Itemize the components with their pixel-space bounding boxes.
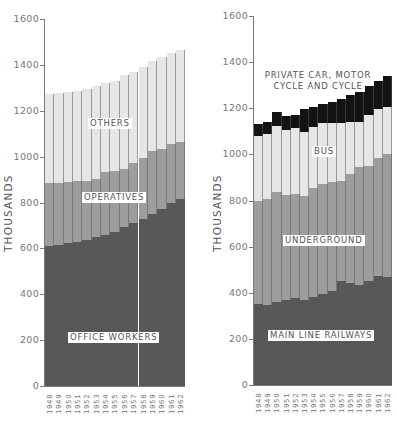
x-tick-label-year: 1957 <box>338 393 346 413</box>
bar-segment-office-workers <box>64 243 73 386</box>
y-tick-label: 400 <box>5 288 39 299</box>
bar-segment-office-workers <box>92 237 101 386</box>
bar-segment-main-line-railways <box>300 300 309 385</box>
bar-segment-underground <box>300 196 309 300</box>
bar-segment-others <box>148 61 157 152</box>
right-chart-travel-mode: 0200400600800100012001400160019481949195… <box>200 0 397 422</box>
bar-segment-private-car-motor-cycle-and-cycle <box>282 116 291 130</box>
x-tick-label-year: 1954 <box>310 393 318 413</box>
y-tick <box>249 108 253 109</box>
x-tick-label-year: 1949 <box>55 394 63 414</box>
x-tick-label-year: 1952 <box>292 393 300 413</box>
left-chart-workers-by-type: 0200400600800100012001400160019481949195… <box>0 0 200 422</box>
x-tick-label-year: 1956 <box>121 394 129 414</box>
bar-segment-underground <box>346 174 355 283</box>
bar-segment-office-workers <box>120 227 129 386</box>
y-tick-label: 1000 <box>214 148 248 159</box>
bar-segment-operatives <box>101 172 110 235</box>
y-tick <box>249 62 253 63</box>
bar-segment-operatives <box>167 144 176 203</box>
bar-segment-operatives <box>139 158 148 219</box>
x-tick-label-year: 1961 <box>375 393 383 413</box>
bar-segment-office-workers <box>73 242 82 386</box>
y-tick <box>40 203 44 204</box>
label-operatives: OPERATIVES <box>82 192 146 203</box>
bar-segment-office-workers <box>139 219 148 386</box>
bar-segment-others <box>139 67 148 159</box>
bar-segment-underground <box>355 167 364 285</box>
label-office-workers: OFFICE WORKERS <box>68 332 159 343</box>
bar-segment-operatives <box>54 183 63 245</box>
bar-segment-private-car-motor-cycle-and-cycle <box>346 95 355 122</box>
bar-segment-others <box>176 50 185 142</box>
x-tick-label-year: 1960 <box>158 394 166 414</box>
x-tick-label-year: 1959 <box>356 393 364 413</box>
y-tick <box>40 340 44 341</box>
x-tick-label-year: 1955 <box>111 394 119 414</box>
bar-segment-bus <box>374 109 383 158</box>
x-tick-label-year: 1958 <box>347 393 355 413</box>
x-tick-label-year: 1959 <box>149 394 157 414</box>
bar-segment-others <box>167 53 176 144</box>
x-tick-label-year: 1948 <box>255 393 263 413</box>
bar-segment-bus <box>364 115 373 166</box>
bar-segment-others <box>157 57 166 149</box>
y-tick <box>249 339 253 340</box>
bar-segment-main-line-railways <box>374 276 383 385</box>
bar-segment-bus <box>300 132 309 195</box>
bar-segment-main-line-railways <box>254 304 263 385</box>
y-tick-label: 200 <box>214 333 248 344</box>
bar-segment-operatives <box>92 179 101 237</box>
label-bus: BUS <box>312 146 336 157</box>
bar-segment-private-car-motor-cycle-and-cycle <box>291 115 300 128</box>
x-tick-label-year: 1960 <box>365 393 373 413</box>
bar-segment-operatives <box>73 181 82 241</box>
label-main-line-railways: MAIN LINE RAILWAYS <box>268 330 374 341</box>
bar-segment-operatives <box>64 182 73 243</box>
x-axis-baseline <box>253 385 392 386</box>
y-tick-label: 1400 <box>5 59 39 70</box>
bar-segment-main-line-railways <box>383 277 392 385</box>
bar-segment-underground <box>337 181 346 280</box>
bar-segment-underground <box>374 158 383 275</box>
bar-segment-bus <box>282 130 291 195</box>
x-tick-label-year: 1957 <box>130 394 138 414</box>
left-y-axis-title: THOUSANDS <box>2 174 14 252</box>
y-tick-label: 400 <box>214 287 248 298</box>
x-tick-label-year: 1955 <box>319 393 327 413</box>
x-tick-label-year: 1951 <box>283 393 291 413</box>
bar-segment-bus <box>309 127 318 188</box>
bar-segment-bus <box>355 122 364 168</box>
x-tick-label-year: 1962 <box>384 393 392 413</box>
bar-segment-main-line-railways <box>272 302 281 385</box>
label-private-car-line2: CYCLE AND CYCLE <box>271 81 364 92</box>
bar-segment-private-car-motor-cycle-and-cycle <box>337 99 346 124</box>
y-tick-label: 1200 <box>5 105 39 116</box>
bar-segment-private-car-motor-cycle-and-cycle <box>254 124 263 136</box>
bar-segment-office-workers <box>129 223 138 386</box>
bar-segment-office-workers <box>101 235 110 386</box>
label-private-car-line1: PRIVATE CAR, MOTOR <box>263 70 374 81</box>
bar-segment-private-car-motor-cycle-and-cycle <box>318 104 327 123</box>
bar-segment-bus <box>337 123 346 181</box>
bar-segment-bus <box>263 134 272 199</box>
y-tick-label: 1600 <box>214 10 248 21</box>
y-tick <box>40 65 44 66</box>
y-tick <box>249 154 253 155</box>
y-tick <box>249 247 253 248</box>
y-tick-label: 1000 <box>5 151 39 162</box>
bar-segment-private-car-motor-cycle-and-cycle <box>263 122 272 134</box>
bar-segment-private-car-motor-cycle-and-cycle <box>328 102 337 124</box>
y-tick <box>249 201 253 202</box>
x-tick-label-year: 1949 <box>264 393 272 413</box>
x-tick-label-year: 1953 <box>93 394 101 414</box>
label-underground: UNDERGROUND <box>283 235 365 246</box>
y-tick <box>40 19 44 20</box>
bar-segment-others <box>82 89 91 181</box>
x-tick-label-year: 1962 <box>177 394 185 414</box>
y-tick <box>40 248 44 249</box>
bar-segment-others <box>73 91 82 182</box>
bar-segment-operatives <box>45 183 54 245</box>
label-others: OTHERS <box>88 118 132 129</box>
bar-segment-operatives <box>157 149 166 209</box>
